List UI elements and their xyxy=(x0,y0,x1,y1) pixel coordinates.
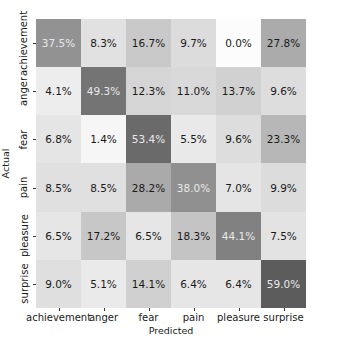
y-tick-label: achievement xyxy=(17,19,31,67)
heatmap-cell: 13.7% xyxy=(216,67,261,115)
y-tick-label: anger xyxy=(17,67,31,115)
x-axis-title: Predicted xyxy=(36,325,306,336)
heatmap-cell: 6.8% xyxy=(36,115,81,163)
heatmap-cell: 9.6% xyxy=(216,115,261,163)
heatmap-cell: 6.4% xyxy=(216,260,261,308)
heatmap-cell: 12.3% xyxy=(126,67,171,115)
heatmap-cell: 9.7% xyxy=(171,19,216,67)
y-tick-label: pain xyxy=(17,164,31,212)
heatmap-cell: 9.9% xyxy=(261,163,306,211)
heatmap-cell: 1.4% xyxy=(81,115,126,163)
heatmap-cell: 6.5% xyxy=(36,212,81,260)
heatmap-cell: 18.3% xyxy=(171,212,216,260)
heatmap-cell: 8.5% xyxy=(36,163,81,211)
heatmap-cell: 6.5% xyxy=(126,212,171,260)
x-tick xyxy=(194,308,195,311)
heatmap-cell: 8.5% xyxy=(81,163,126,211)
heatmap-cell: 9.0% xyxy=(36,260,81,308)
y-axis-title: Actual xyxy=(0,19,12,308)
heatmap-cell: 27.8% xyxy=(261,19,306,67)
heatmap-cell: 7.5% xyxy=(261,212,306,260)
x-tick xyxy=(239,308,240,311)
x-tick xyxy=(149,308,150,311)
heatmap-cell: 49.3% xyxy=(81,67,126,115)
heatmap-cell: 16.7% xyxy=(126,19,171,67)
heatmap-cell: 28.2% xyxy=(126,163,171,211)
heatmap-cell: 59.0% xyxy=(261,260,306,308)
x-tick xyxy=(59,308,60,311)
x-tick xyxy=(284,308,285,311)
x-tick-label: surprise xyxy=(251,312,316,323)
heatmap-cell: 23.3% xyxy=(261,115,306,163)
x-tick xyxy=(104,308,105,311)
heatmap-cell: 53.4% xyxy=(126,115,171,163)
heatmap-cell: 17.2% xyxy=(81,212,126,260)
heatmap-cell: 14.1% xyxy=(126,260,171,308)
y-tick-label: surprise xyxy=(17,260,31,308)
heatmap-cell: 5.5% xyxy=(171,115,216,163)
heatmap-grid: 37.5%8.3%16.7%9.7%0.0%27.8%4.1%49.3%12.3… xyxy=(36,19,306,308)
heatmap-cell: 8.3% xyxy=(81,19,126,67)
heatmap-cell: 7.0% xyxy=(216,163,261,211)
heatmap-cell: 38.0% xyxy=(171,163,216,211)
y-tick-label: fear xyxy=(17,115,31,163)
heatmap-cell: 4.1% xyxy=(36,67,81,115)
heatmap-cell: 11.0% xyxy=(171,67,216,115)
heatmap-cell: 37.5% xyxy=(36,19,81,67)
y-axis-title-text: Actual xyxy=(1,149,12,179)
heatmap-cell: 5.1% xyxy=(81,260,126,308)
heatmap-cell: 44.1% xyxy=(216,212,261,260)
heatmap-cell: 0.0% xyxy=(216,19,261,67)
heatmap-cell: 6.4% xyxy=(171,260,216,308)
heatmap-cell: 9.6% xyxy=(261,67,306,115)
y-tick-label: pleasure xyxy=(17,212,31,260)
